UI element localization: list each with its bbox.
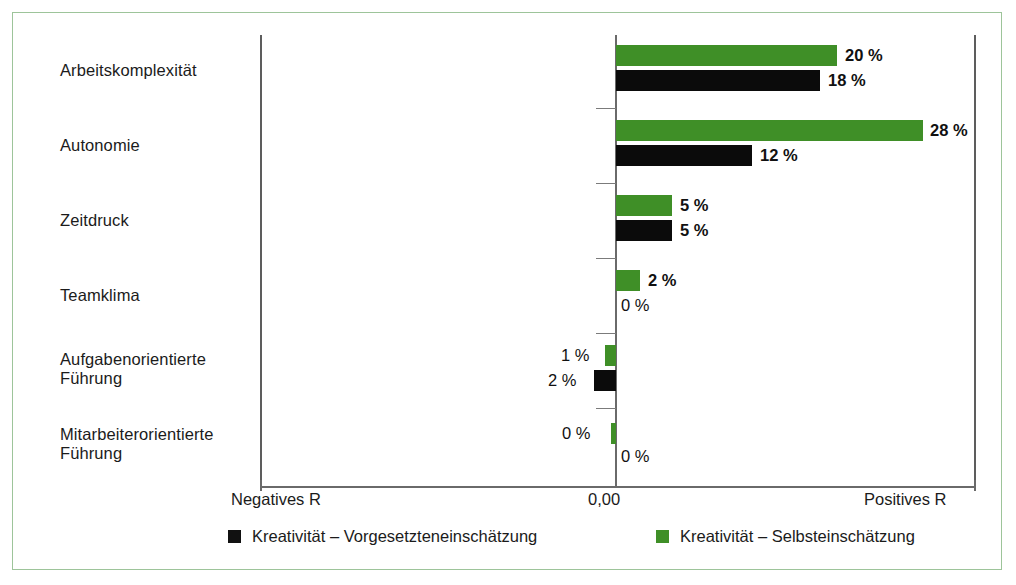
value-label-self-aufgabenorientierte-fuehrung: 1 % [561,345,589,366]
axis-caption-zero: 0,00 [588,490,620,509]
zero-axis-line [615,35,617,487]
axis-tick-right [974,480,976,491]
chart-figure: Arbeitskomplexität 20 % 18 % Autonomie 2… [0,0,1016,585]
category-label-teamklima: Teamklima [60,286,270,305]
category-label-arbeitskomplexitaet: Arbeitskomplexität [60,61,270,80]
category-separator-tick [596,183,616,184]
category-separator-tick [596,108,616,109]
category-label-mitarbeiterorientierte-fuehrung: Mitarbeiterorientierte Führung [60,425,270,463]
bar-self-teamklima [616,270,640,291]
bar-self-autonomie [616,120,923,141]
axis-tick-center [615,472,617,487]
legend-swatch-black-icon [228,530,241,543]
value-label-supervisor-zeitdruck: 5 % [680,220,708,241]
legend-item-self: Kreativität – Selbsteinschätzung [656,527,915,546]
category-separator-tick [596,258,616,259]
category-label-autonomie: Autonomie [60,136,270,155]
chart-legend: Kreativität – Vorgesetzteneinschätzung K… [0,527,1016,555]
value-label-supervisor-autonomie: 12 % [760,145,798,166]
axis-caption-negative: Negatives R [231,490,321,509]
bar-self-aufgabenorientierte-fuehrung [605,345,616,366]
value-label-supervisor-mitarbeiterorientierte-fuehrung: 0 % [621,446,649,467]
bar-supervisor-aufgabenorientierte-fuehrung [594,370,616,391]
plot-area: Arbeitskomplexität 20 % 18 % Autonomie 2… [0,0,1016,585]
value-label-self-arbeitskomplexitaet: 20 % [845,45,883,66]
legend-label-supervisor: Kreativität – Vorgesetzteneinschätzung [252,527,537,546]
legend-swatch-green-icon [656,530,669,543]
category-label-aufgabenorientierte-fuehrung: Aufgabenorientierte Führung [60,350,270,388]
bottom-axis-line [260,486,976,488]
category-separator-tick [596,408,616,409]
value-label-self-teamklima: 2 % [648,270,676,291]
category-separator-tick [596,333,616,334]
value-label-supervisor-teamklima: 0 % [621,295,649,316]
legend-item-supervisor: Kreativität – Vorgesetzteneinschätzung [228,527,537,546]
value-label-supervisor-aufgabenorientierte-fuehrung: 2 % [548,370,576,391]
bar-self-arbeitskomplexitaet [616,45,837,66]
bar-supervisor-autonomie [616,145,752,166]
left-axis-line [260,35,262,487]
bar-self-zeitdruck [616,195,672,216]
bar-self-mitarbeiterorientierte-fuehrung [611,423,616,444]
axis-caption-positive: Positives R [864,490,947,509]
value-label-self-autonomie: 28 % [930,120,968,141]
value-label-self-zeitdruck: 5 % [680,195,708,216]
value-label-self-mitarbeiterorientierte-fuehrung: 0 % [562,423,590,444]
right-axis-line [974,35,976,487]
bar-supervisor-zeitdruck [616,220,672,241]
value-label-supervisor-arbeitskomplexitaet: 18 % [828,70,866,91]
category-label-zeitdruck: Zeitdruck [60,211,270,230]
legend-label-self: Kreativität – Selbsteinschätzung [680,527,915,546]
bar-supervisor-arbeitskomplexitaet [616,70,820,91]
